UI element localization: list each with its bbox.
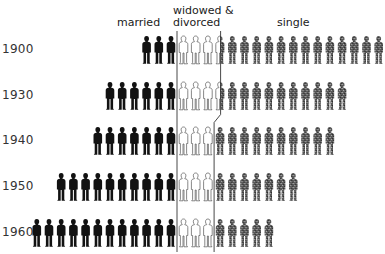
widowed-figure [191,219,200,247]
single-figure [313,127,322,155]
married-figure [142,36,151,64]
single-figure [313,82,322,110]
single-figure [252,219,261,247]
single-figure [362,36,371,64]
widowed-figure [191,173,200,201]
single-figure [228,82,237,110]
single-figure [216,219,225,247]
widowed-figure [179,173,188,201]
married-figure [167,173,176,201]
married-figure [81,173,90,201]
married-figure [142,173,151,201]
married-figure [130,219,139,247]
single-figure [240,36,249,64]
single-figure [216,127,225,155]
married-figure [106,82,115,110]
single-figure [265,82,274,110]
single-figure [252,82,261,110]
widowed-figure [204,173,213,201]
married-figure [45,219,54,247]
married-figure [130,173,139,201]
married-figure [118,82,127,110]
single-figure [240,219,249,247]
single-figure [240,127,249,155]
widowed-figure [179,127,188,155]
widowed-figure [204,127,213,155]
single-figure [289,173,298,201]
pictograph-canvas [0,0,385,254]
married-figure [167,36,176,64]
married-figure [130,82,139,110]
single-figure [216,173,225,201]
single-figure [289,127,298,155]
single-figure [301,82,310,110]
married-figure [155,127,164,155]
married-figure [118,127,127,155]
single-figure [326,127,335,155]
married-figure [106,127,115,155]
married-figure [155,82,164,110]
widowed-figure [204,82,213,110]
single-figure [350,36,359,64]
single-figure [277,82,286,110]
widowed-figure [191,82,200,110]
married-figure [69,219,78,247]
single-figure [301,127,310,155]
single-figure [374,36,383,64]
single-figure [240,173,249,201]
married-figure [106,173,115,201]
single-figure [228,127,237,155]
married-figure [142,127,151,155]
married-figure [118,219,127,247]
single-figure [289,36,298,64]
married-figure [118,173,127,201]
married-figure [155,173,164,201]
single-figure [228,173,237,201]
single-figure [240,82,249,110]
widowed-figure [179,82,188,110]
married-figure [69,173,78,201]
single-figure [289,82,298,110]
single-figure [252,127,261,155]
single-figure [313,36,322,64]
single-figure [265,127,274,155]
single-figure [265,173,274,201]
married-figure [94,173,103,201]
widowed-figure [179,36,188,64]
single-figure [265,36,274,64]
single-figure [301,36,310,64]
single-figure [277,36,286,64]
married-figure [81,219,90,247]
married-figure [167,82,176,110]
widowed-figure [191,36,200,64]
single-figure [277,127,286,155]
married-figure [106,219,115,247]
single-figure [252,36,261,64]
single-figure [338,36,347,64]
married-figure [33,219,42,247]
married-figure [57,173,66,201]
single-figure [326,36,335,64]
married-figure [167,127,176,155]
married-figure [142,82,151,110]
single-figure [228,36,237,64]
married-figure [57,219,66,247]
married-figure [167,219,176,247]
single-figure [252,173,261,201]
single-figure [338,82,347,110]
single-figure [326,82,335,110]
single-figure [265,219,274,247]
married-figure [94,219,103,247]
married-figure [130,127,139,155]
widowed-figure [204,36,213,64]
widowed-figure [179,219,188,247]
married-figure [94,127,103,155]
widowed-figure [191,127,200,155]
married-figure [142,219,151,247]
single-figure [277,173,286,201]
married-figure [155,219,164,247]
single-figure [228,219,237,247]
married-figure [155,36,164,64]
widowed-figure [204,219,213,247]
